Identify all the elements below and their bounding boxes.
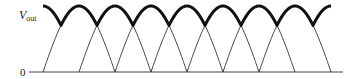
vout-envelope-curve [43,6,331,25]
thin-arch [187,6,259,72]
rectifier-waveform-plot [0,0,352,79]
thin-arch [43,6,115,72]
thin-rectified-arches [43,6,331,72]
thin-arch [223,6,295,72]
zero-label: 0 [20,67,26,78]
thin-arch [259,6,331,72]
vout-label: Vout [19,9,37,23]
thin-arch [151,6,223,72]
thin-arch [115,6,187,72]
thin-arch [79,6,151,72]
